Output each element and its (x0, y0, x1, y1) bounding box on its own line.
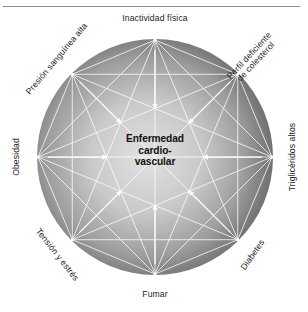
node-dot-inactividad-fisica (153, 38, 156, 41)
node-dot-diabetes (236, 238, 239, 241)
node-dot-fumar (153, 272, 156, 275)
node-dot-obesidad (36, 155, 39, 158)
center-label: Enfermedad cardio- vascular (104, 133, 206, 168)
figure-canvas: Inactividad físicaPerfil deficiente de c… (0, 0, 308, 312)
node-dot-trigliceridos-altos (270, 155, 273, 158)
node-dot-tension-y-estres (71, 238, 74, 241)
node-dot-presion-sanguinea-alta (71, 73, 74, 76)
node-dot-perfil-colesterol (236, 73, 239, 76)
